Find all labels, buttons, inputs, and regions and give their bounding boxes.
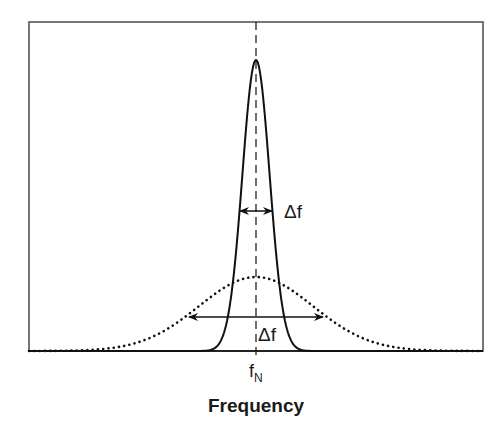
center-frequency-label: fN bbox=[249, 361, 263, 385]
narrow-linewidth-label: Δf bbox=[284, 201, 303, 222]
x-axis-title: Frequency bbox=[208, 395, 305, 416]
center-frequency-label-subscript: N bbox=[254, 371, 263, 385]
linewidth-diagram: Δf Δf fN Frequency bbox=[0, 0, 502, 428]
broad-linewidth-label: Δf bbox=[258, 324, 277, 345]
